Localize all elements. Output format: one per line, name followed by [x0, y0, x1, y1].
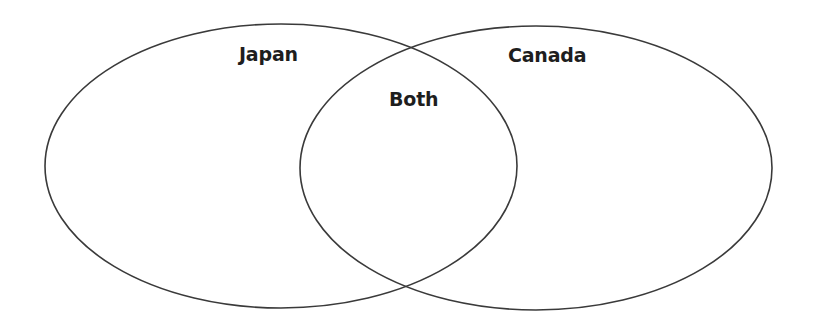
circle-japan — [45, 24, 517, 308]
set-label-japan: Japan — [239, 45, 298, 64]
circle-canada — [300, 26, 772, 310]
venn-diagram-shapes — [0, 0, 813, 325]
intersection-label-both: Both — [389, 90, 438, 109]
set-label-canada: Canada — [508, 46, 586, 65]
